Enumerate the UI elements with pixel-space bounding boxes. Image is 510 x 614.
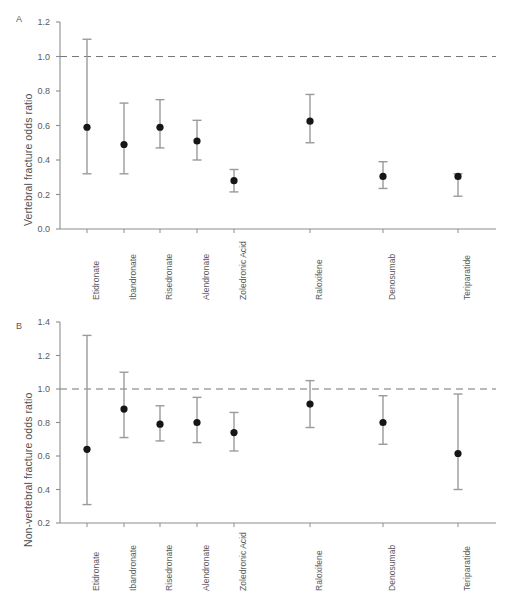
panel-a-plot-area bbox=[0, 0, 510, 307]
data-point-group bbox=[83, 39, 92, 174]
data-point-group bbox=[230, 412, 239, 451]
point-marker bbox=[230, 429, 237, 436]
figure-panels: A Vertebral fracture odds ratio 0.00.20.… bbox=[0, 0, 510, 614]
point-marker bbox=[306, 118, 313, 125]
data-point-group bbox=[156, 406, 165, 441]
point-marker bbox=[379, 419, 386, 426]
point-marker bbox=[230, 177, 237, 184]
chart-panel-b: B Non-vertebral fracture odds ratio 0.20… bbox=[0, 307, 510, 614]
data-point-group bbox=[230, 169, 239, 191]
data-point-group bbox=[306, 94, 315, 142]
point-marker bbox=[454, 173, 461, 180]
data-point-group bbox=[379, 162, 388, 189]
point-marker bbox=[83, 124, 90, 131]
point-marker bbox=[193, 419, 200, 426]
data-point-group bbox=[83, 335, 92, 504]
data-point-group bbox=[120, 103, 129, 174]
data-point-group bbox=[120, 372, 129, 437]
chart-panel-a: A Vertebral fracture odds ratio 0.00.20.… bbox=[0, 0, 510, 307]
data-point-group bbox=[454, 173, 463, 196]
data-point-group bbox=[454, 394, 463, 489]
data-point-group bbox=[306, 381, 315, 428]
data-point-group bbox=[156, 100, 165, 148]
data-point-group bbox=[193, 397, 202, 442]
point-marker bbox=[193, 137, 200, 144]
point-marker bbox=[379, 173, 386, 180]
point-marker bbox=[83, 446, 90, 453]
point-marker bbox=[156, 421, 163, 428]
data-point-group bbox=[379, 396, 388, 445]
data-point-group bbox=[193, 120, 202, 160]
panel-b-plot-area bbox=[0, 307, 510, 614]
point-marker bbox=[120, 406, 127, 413]
point-marker bbox=[156, 124, 163, 131]
point-marker bbox=[306, 400, 313, 407]
point-marker bbox=[454, 450, 461, 457]
point-marker bbox=[120, 141, 127, 148]
